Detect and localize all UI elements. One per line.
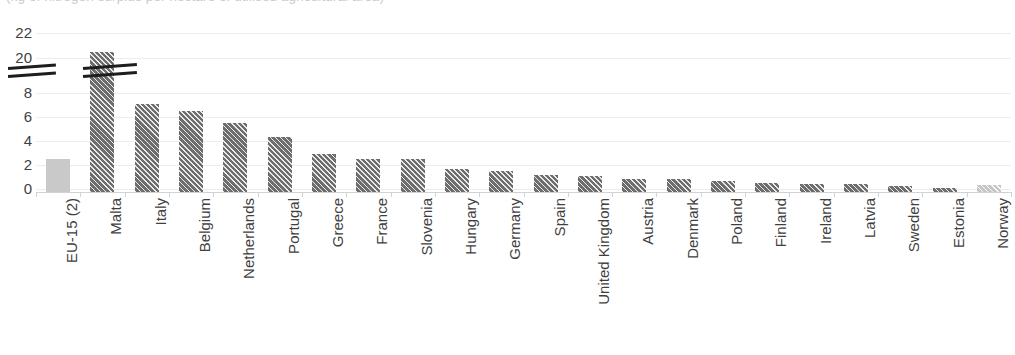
category-label-hungary: Hungary xyxy=(463,198,478,255)
x-axis-tick xyxy=(967,192,968,197)
bar-greece xyxy=(312,154,336,192)
bar-poland xyxy=(711,181,735,192)
category-label-italy: Italy xyxy=(153,198,168,226)
malta-bar-break-mark xyxy=(83,64,139,84)
bar-united-kingdom xyxy=(578,176,602,192)
category-label-latvia: Latvia xyxy=(862,198,877,238)
x-axis-category-labels: EU-15 (2)MaltaItalyBelgiumNetherlandsPor… xyxy=(36,198,1011,348)
bar-slovenia xyxy=(401,159,425,192)
category-label-norway: Norway xyxy=(995,198,1010,249)
x-axis-tick xyxy=(656,192,657,197)
x-axis-tick xyxy=(922,192,923,197)
y-axis-tick-label: 4 xyxy=(2,133,32,148)
y-axis-tick-label: 6 xyxy=(2,109,32,124)
y-axis-tick-label: 0 xyxy=(2,181,32,196)
x-axis-tick xyxy=(479,192,480,197)
bar-netherlands xyxy=(223,123,247,192)
category-label-greece: Greece xyxy=(330,198,345,247)
category-label-poland: Poland xyxy=(729,198,744,245)
x-axis-tick xyxy=(169,192,170,197)
bar-denmark xyxy=(667,179,691,192)
bar-eu-15-2 xyxy=(46,159,70,192)
x-axis-tick xyxy=(302,192,303,197)
x-axis-tick xyxy=(568,192,569,197)
y-axis-tick-label: 2 xyxy=(2,157,32,172)
category-label-germany: Germany xyxy=(507,198,522,260)
x-axis-tick xyxy=(80,192,81,197)
bar-belgium xyxy=(179,111,203,192)
bar-france xyxy=(356,159,380,192)
bar-norway xyxy=(977,185,1001,192)
category-label-eu-15-2: EU-15 (2) xyxy=(64,198,79,263)
y-axis-tick-label: 20 xyxy=(2,50,32,65)
x-axis-tick xyxy=(435,192,436,197)
y-axis-tick-label: 22 xyxy=(2,25,32,40)
bar-portugal xyxy=(268,137,292,192)
y-axis: 222086420 xyxy=(0,20,32,192)
bar-germany xyxy=(489,171,513,192)
chart-title: (kg of nitrogen surplus per hectare of u… xyxy=(6,0,1006,5)
x-axis-tick xyxy=(878,192,879,197)
category-label-belgium: Belgium xyxy=(197,198,212,252)
bar-break-rule-upper xyxy=(83,63,137,69)
x-axis-tick xyxy=(834,192,835,197)
y-axis-tick-label: 8 xyxy=(2,85,32,100)
x-axis-tick xyxy=(36,192,37,197)
bar-spain xyxy=(534,175,558,192)
x-axis-tick xyxy=(1011,192,1012,197)
bar-finland xyxy=(755,183,779,192)
bar-austria xyxy=(622,179,646,192)
category-label-austria: Austria xyxy=(640,198,655,245)
category-label-denmark: Denmark xyxy=(685,198,700,259)
category-label-finland: Finland xyxy=(773,198,788,247)
x-axis-tick xyxy=(258,192,259,197)
category-label-portugal: Portugal xyxy=(286,198,301,254)
x-axis-tick xyxy=(612,192,613,197)
x-axis-tick xyxy=(213,192,214,197)
category-label-spain: Spain xyxy=(552,198,567,236)
bar-latvia xyxy=(844,184,868,192)
x-axis-tick xyxy=(745,192,746,197)
category-label-malta: Malta xyxy=(108,198,123,235)
category-label-france: France xyxy=(374,198,389,245)
nitrogen-surplus-bar-chart: (kg of nitrogen surplus per hectare of u… xyxy=(0,0,1015,355)
category-label-united-kingdom: United Kingdom xyxy=(596,198,611,305)
bar-ireland xyxy=(800,184,824,192)
category-label-estonia: Estonia xyxy=(951,198,966,248)
x-axis-tick xyxy=(701,192,702,197)
x-axis-tick xyxy=(524,192,525,197)
bar-italy xyxy=(135,104,159,192)
bars-layer xyxy=(36,20,1011,192)
bar-hungary xyxy=(445,169,469,192)
x-axis-tick xyxy=(789,192,790,197)
x-axis-tick xyxy=(346,192,347,197)
x-axis-tick xyxy=(391,192,392,197)
x-axis-tick xyxy=(125,192,126,197)
category-label-slovenia: Slovenia xyxy=(419,198,434,256)
category-label-ireland: Ireland xyxy=(818,198,833,244)
bar-break-rule-lower xyxy=(83,71,137,77)
category-label-sweden: Sweden xyxy=(906,198,921,252)
category-label-netherlands: Netherlands xyxy=(241,198,256,279)
